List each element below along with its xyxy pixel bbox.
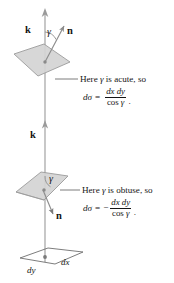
base-dx-label: dx: [61, 258, 70, 267]
lower-formula: dσ = − dx dy cos γ .: [83, 198, 136, 218]
upper-formula: dσ = dx dy cos γ .: [83, 87, 131, 107]
upper-formula-equals: =: [95, 92, 100, 102]
lower-formula-sign: −: [103, 203, 108, 213]
lower-surface-patch: [16, 172, 68, 200]
upper-formula-fraction: dx dy cos γ: [104, 87, 127, 107]
middle-k-label: k: [30, 130, 36, 141]
upper-callout-text: Here γ is acute, so: [80, 74, 146, 85]
base-center-dot: [43, 255, 47, 259]
lower-callout-suffix: is obtuse, so: [106, 185, 153, 195]
lower-origin-dot: [42, 188, 45, 191]
lower-formula-equals: =: [95, 203, 100, 213]
upper-formula-lhs: dσ: [83, 92, 92, 102]
upper-formula-numerator: dx dy: [104, 87, 127, 97]
lower-formula-lhs: dσ: [83, 203, 92, 213]
base-dy-label: dy: [27, 266, 36, 275]
upper-formula-denominator: cos γ: [105, 97, 126, 108]
upper-k-label: k: [25, 25, 31, 36]
upper-formula-denominator-prefix: cos: [107, 97, 121, 107]
upper-formula-denominator-gamma: γ: [121, 97, 124, 107]
lower-formula-trailing: .: [134, 207, 136, 218]
lower-formula-numerator: dx dy: [109, 198, 132, 208]
base-projection-rectangle: [20, 248, 83, 264]
lower-formula-denominator: cos γ: [110, 208, 131, 219]
surface-element-figure: k γ n k γ n dy dx Here γ is acute, so dσ…: [0, 0, 174, 283]
upper-callout-prefix: Here: [80, 74, 100, 84]
lower-n-label: n: [56, 211, 62, 222]
lower-callout-prefix: Here: [82, 185, 102, 195]
upper-origin-dot: [43, 60, 46, 63]
upper-callout-suffix: is acute, so: [104, 74, 146, 84]
lower-formula-denominator-prefix: cos: [112, 208, 126, 218]
upper-formula-trailing: .: [129, 96, 131, 107]
figure-graphics: [0, 0, 174, 283]
upper-surface-patch: [14, 44, 70, 76]
upper-gamma-label: γ: [47, 27, 51, 37]
lower-callout-text: Here γ is obtuse, so: [82, 185, 153, 196]
lower-formula-fraction: dx dy cos γ: [109, 198, 132, 218]
lower-gamma-label: γ: [49, 174, 53, 184]
upper-n-label: n: [67, 26, 73, 37]
lower-formula-denominator-gamma: γ: [126, 208, 129, 218]
